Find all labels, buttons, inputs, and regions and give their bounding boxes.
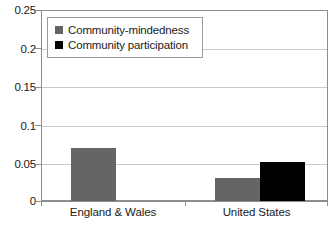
- y-axis-tick-label: 0.05: [0, 159, 36, 171]
- bar-chart: 0.25 0.2 0.15 0.1 0.05 0 England & Wales…: [0, 0, 335, 226]
- gridline: [42, 126, 327, 127]
- y-axis-tick-label: 0.15: [0, 82, 36, 94]
- grey-swatch-icon: [55, 26, 63, 34]
- legend-entry-label: Community participation: [68, 39, 188, 51]
- legend-entry: Community participation: [55, 37, 196, 52]
- bar-united-states-community-participation: [260, 162, 305, 201]
- y-axis-tick-label: 0: [0, 196, 36, 208]
- x-axis-label-england-wales: England & Wales: [41, 206, 185, 218]
- gridline: [42, 87, 327, 88]
- legend: Community-mindedness Community participa…: [47, 17, 203, 58]
- y-axis-tick-label: 0.1: [0, 121, 36, 133]
- y-axis-tick-label: 0.2: [0, 44, 36, 56]
- x-axis-label-united-states: United States: [185, 206, 328, 218]
- legend-entry: Community-mindedness: [55, 22, 196, 37]
- bar-united-states-community-mindedness: [215, 178, 260, 201]
- bar-england-wales-community-mindedness: [71, 148, 116, 201]
- legend-entry-label: Community-mindedness: [68, 24, 189, 36]
- y-axis-tick-label: 0.25: [0, 5, 36, 17]
- black-swatch-icon: [55, 41, 63, 49]
